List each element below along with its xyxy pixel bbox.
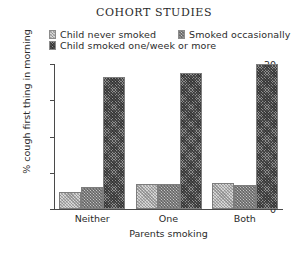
legend-label: Smoked occasionally xyxy=(189,29,290,40)
bar xyxy=(81,187,103,209)
bar xyxy=(158,184,180,209)
y-axis-title: % cough first thing in morning xyxy=(21,12,32,192)
plot-area: 05101520 NeitherOneBoth xyxy=(54,64,283,209)
y-axis-tick xyxy=(50,137,55,138)
y-axis-tick xyxy=(50,100,55,101)
bar xyxy=(136,184,158,209)
x-axis-tick-label: One xyxy=(129,214,209,224)
chart-title: COHORT STUDIES xyxy=(0,6,308,19)
y-axis-tick xyxy=(50,64,55,65)
legend-swatch-icon xyxy=(49,30,56,39)
bar xyxy=(212,183,234,209)
x-axis-line xyxy=(54,209,283,210)
legend-row: Child never smoked Smoked occasionally xyxy=(49,29,301,40)
legend-label: Child never smoked xyxy=(60,29,156,40)
chart-legend: Child never smoked Smoked occasionally C… xyxy=(49,29,301,51)
legend-row: Child smoked one/week or more xyxy=(49,40,301,51)
legend-swatch-icon xyxy=(178,30,185,39)
legend-entry-never-smoked: Child never smoked xyxy=(49,29,156,40)
bar xyxy=(180,73,202,209)
bar xyxy=(59,192,81,209)
bar-chart: COHORT STUDIES Child never smoked Smoked… xyxy=(0,0,308,256)
x-axis-tick-label: Both xyxy=(205,214,285,224)
bar xyxy=(103,77,125,209)
legend-entry-smoked-weekly: Child smoked one/week or more xyxy=(49,40,216,51)
legend-label: Child smoked one/week or more xyxy=(60,40,216,51)
legend-swatch-icon xyxy=(49,41,56,50)
y-axis-tick xyxy=(50,173,55,174)
x-axis-title: Parents smoking xyxy=(54,228,283,239)
bar xyxy=(234,185,256,209)
legend-entry-smoked-occasionally: Smoked occasionally xyxy=(178,29,290,40)
x-axis-tick-label: Neither xyxy=(52,214,132,224)
bar xyxy=(256,64,278,209)
y-axis-tick xyxy=(50,209,55,210)
